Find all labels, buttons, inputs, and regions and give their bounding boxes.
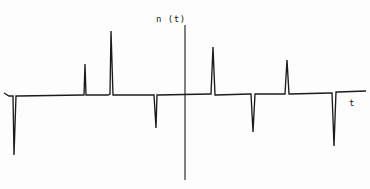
horizontal-axis-label: t xyxy=(349,98,355,108)
vertical-axis-label: n (t) xyxy=(156,14,186,24)
waveform-plot xyxy=(0,0,370,189)
figure-container: n (t) t xyxy=(0,0,370,189)
